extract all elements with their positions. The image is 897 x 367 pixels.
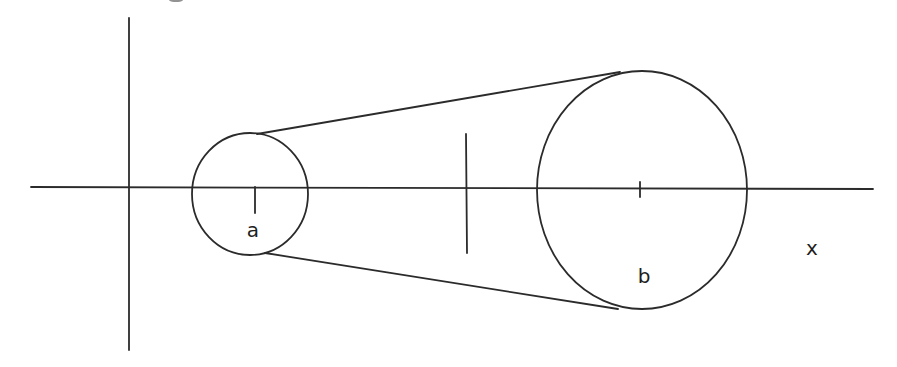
label-b: b	[638, 264, 651, 288]
label-x-axis: x	[806, 236, 818, 260]
cropped-glyph-fragment	[169, 0, 183, 2]
upper-tangent-line	[257, 72, 620, 134]
lower-tangent-line	[265, 253, 618, 309]
tangent-circles-diagram: a b x	[0, 0, 897, 367]
label-a: a	[247, 218, 259, 242]
middle-vertical-line	[466, 134, 467, 253]
